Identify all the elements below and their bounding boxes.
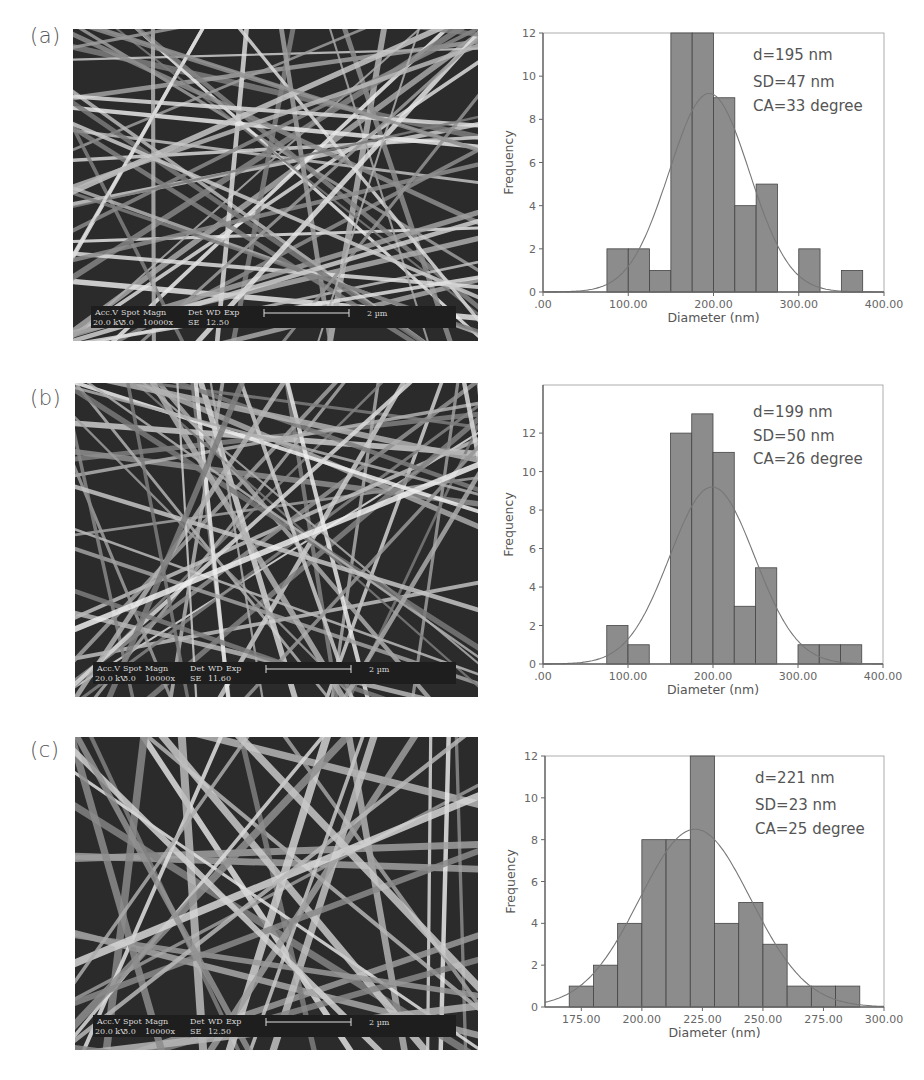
svg-text:Det: Det [188,308,203,317]
svg-text:200.00: 200.00 [623,1013,662,1026]
svg-text:300.00: 300.00 [865,1013,904,1026]
x-axis-title: Diameter (nm) [668,1025,760,1040]
histogram-bar [642,840,666,1007]
svg-text:Det: Det [190,1017,205,1026]
svg-text:100.00: 100.00 [609,670,648,683]
svg-text:SE: SE [190,674,201,683]
sem-info-bar: Acc.VSpotMagnDetWDExp20.0 kV3.010000xSE1… [91,306,456,328]
histogram-bar [756,568,777,664]
svg-text:4: 4 [529,200,536,213]
svg-text:Exp: Exp [226,1017,241,1026]
svg-text:d=195 nm: d=195 nm [753,46,833,64]
svg-text:Magn: Magn [145,1017,168,1026]
svg-text:CA=33 degree: CA=33 degree [753,97,863,115]
svg-text:SE: SE [190,1027,201,1036]
svg-text:SD=47 nm: SD=47 nm [753,73,835,91]
histogram-bar [798,645,819,664]
svg-text:Acc.V: Acc.V [94,308,118,317]
histogram-bar [763,944,787,1007]
svg-text:10000x: 10000x [145,674,175,683]
svg-text:6: 6 [531,876,538,889]
histogram-bar [690,756,714,1007]
svg-text:3.0: 3.0 [123,674,136,683]
histogram-bar [787,986,811,1007]
stats-annotation: d=195 nmSD=47 nmCA=33 degree [753,46,863,115]
svg-text:4: 4 [531,917,538,930]
svg-text:11.6: 11.6 [208,674,226,683]
svg-text:Acc.V: Acc.V [96,664,120,673]
svg-text:8: 8 [529,113,536,126]
svg-text:Acc.V: Acc.V [96,1017,120,1026]
svg-text:300.00: 300.00 [780,298,819,311]
histogram-bar [735,206,756,292]
svg-text:CA=25 degree: CA=25 degree [755,820,865,838]
sem-image-b: Acc.VSpotMagnDetWDExp20.0 kV3.010000xSE1… [75,383,478,697]
svg-text:.00: .00 [534,670,552,683]
histogram-bar [799,249,820,292]
svg-text:3.0: 3.0 [123,1027,136,1036]
histogram-chart-b: 024681012.00100.00200.00300.00400.00Diam… [490,370,924,690]
svg-text:CA=26 degree: CA=26 degree [753,450,863,468]
svg-text:WD: WD [206,308,221,317]
panel-label-b: (b) [30,386,61,410]
x-axis-title: Diameter (nm) [667,310,759,325]
histogram-bar [650,270,671,292]
svg-text:WD: WD [208,664,223,673]
svg-text:SE: SE [188,318,199,327]
svg-text:8: 8 [529,504,536,517]
histogram-bar [739,902,763,1007]
sem-info-bar: Acc.VSpotMagnDetWDExp20.0 kV3.010000xSE1… [93,662,456,684]
svg-text:20.0 kV: 20.0 kV [93,318,124,327]
svg-text:275.00: 275.00 [804,1013,843,1026]
svg-text:10000x: 10000x [145,1027,175,1036]
sem-info-bar: Acc.VSpotMagnDetWDExp20.0 kV3.010000xSE1… [93,1015,456,1037]
svg-text:Magn: Magn [143,308,166,317]
histogram-bar [714,98,735,292]
scale-bar-label: 2 µm [369,1018,390,1027]
scale-bar-label: 2 µm [369,665,390,674]
svg-text:2: 2 [531,959,538,972]
histogram-bar [666,840,690,1007]
histogram-bar [671,33,692,292]
histogram-bar [628,645,649,664]
svg-text:10000x: 10000x [143,318,173,327]
histogram-bar [671,433,692,664]
svg-text:12: 12 [522,427,536,440]
histogram-bars [607,33,863,292]
svg-text:10: 10 [522,70,536,83]
svg-text:d=221 nm: d=221 nm [755,769,835,787]
histogram-bar [628,249,649,292]
y-axis-title: Frequency [503,849,518,914]
svg-text:20.0 kV: 20.0 kV [95,674,126,683]
svg-text:3.0: 3.0 [121,318,134,327]
histogram-bar [841,270,862,292]
svg-text:Spot: Spot [123,1017,142,1026]
panel-label-c: (c) [30,738,59,762]
svg-text:400.00: 400.00 [865,298,904,311]
svg-text:10: 10 [524,792,538,805]
sem-image-c: Acc.VSpotMagnDetWDExp20.0 kV3.010000xSE1… [75,737,478,1050]
svg-text:Spot: Spot [121,308,140,317]
x-axis-title: Diameter (nm) [667,682,759,697]
scale-bar-label: 2 µm [367,309,388,318]
histogram-bar [593,965,617,1007]
histogram-bar [841,645,862,664]
svg-text:0: 0 [226,674,231,683]
svg-text:20.0 kV: 20.0 kV [95,1027,126,1036]
histogram-chart-a: 024681012.00100.00200.00300.00400.00Diam… [490,20,924,340]
histogram-bar [713,452,734,664]
svg-text:6: 6 [529,543,536,556]
svg-text:Det: Det [190,664,205,673]
svg-text:12.5: 12.5 [208,1027,226,1036]
svg-text:12: 12 [522,27,536,40]
stats-annotation: d=199 nmSD=50 nmCA=26 degree [753,403,863,468]
svg-text:SD=50 nm: SD=50 nm [753,427,835,445]
panel-label-a: (a) [30,24,61,48]
svg-text:175.00: 175.00 [562,1013,601,1026]
svg-text:300.00: 300.00 [779,670,818,683]
svg-text:Spot: Spot [123,664,142,673]
histogram-bar [692,414,713,664]
svg-text:12.5: 12.5 [206,318,224,327]
histogram-chart-c: 024681012175.00200.00225.00250.00275.003… [490,720,924,1050]
histogram-bar [715,923,739,1007]
